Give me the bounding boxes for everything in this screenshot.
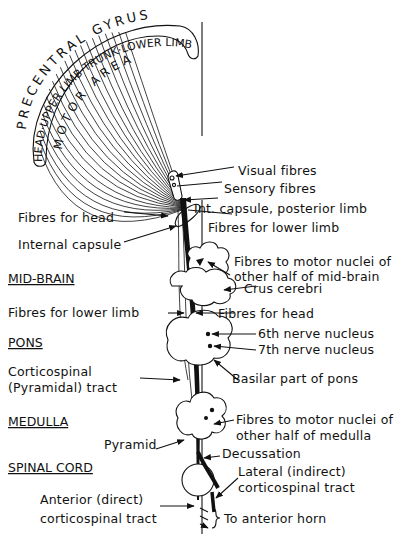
section-pons: PONS [8, 335, 43, 350]
anterior-horn-fibres [200, 508, 208, 528]
label-crus-cerebri: Crus cerebri [244, 281, 322, 296]
section-spinal-cord: SPINAL CORD [8, 460, 93, 475]
label-motor-nuclei-medulla-1: Fibres to motor nuclei of [236, 412, 394, 427]
sixth-nerve-nucleus-dot [206, 332, 210, 336]
medulla-nucleus-dot [204, 416, 208, 420]
label-seventh-nerve: 7th nerve nucleus [258, 342, 374, 357]
label-visual-fibres: Visual fibres [238, 163, 317, 178]
section-medulla: MEDULLA [8, 414, 69, 429]
corticospinal-tract-diagram: HEAD·UPPER LIMB·TRUNK·LOWER LIMB PRECENT… [0, 0, 414, 538]
label-internal-capsule: Internal capsule [18, 237, 122, 252]
section-midbrain: MID-BRAIN [8, 271, 75, 286]
label-fibres-lower-limb: Fibres for lower limb [8, 305, 139, 320]
label-decussation: Decussation [222, 446, 301, 461]
spinal-cord-section [182, 464, 214, 496]
label-motor-nuclei-midbrain-1: Fibres to motor nuclei of [234, 254, 392, 269]
label-sixth-nerve: 6th nerve nucleus [258, 326, 374, 341]
label-anterior-tract-1: Anterior (direct) [40, 492, 143, 507]
label-fibres-head: Fibres for head [18, 210, 114, 225]
label-anterior-horn: To anterior horn [223, 511, 326, 526]
medulla [176, 392, 226, 439]
label-basilar-pons: Basilar part of pons [232, 371, 358, 386]
label-pyramid: Pyramid [104, 437, 157, 452]
label-fibres-lower-limb-top: Fibres for lower limb [208, 220, 339, 235]
label-anterior-tract-2: corticospinal tract [40, 511, 157, 526]
label-corticospinal-2: (Pyramidal) tract [8, 380, 117, 395]
label-lateral-tract-1: Lateral (indirect) [238, 464, 346, 479]
label-sensory-fibres: Sensory fibres [224, 181, 316, 196]
diagram-canvas: HEAD·UPPER LIMB·TRUNK·LOWER LIMB PRECENT… [0, 0, 414, 538]
label-lateral-tract-2: corticospinal tract [238, 480, 355, 495]
label-fibres-head-right: Fibres for head [218, 306, 314, 321]
seventh-nerve-nucleus-dot [208, 344, 212, 348]
medulla-nucleus-dot [210, 408, 214, 412]
label-motor-nuclei-medulla-2: other half of medulla [236, 428, 371, 443]
label-corticospinal-1: Corticospinal [8, 364, 92, 379]
label-int-capsule-posterior: Int. capsule, posterior limb [194, 201, 367, 216]
